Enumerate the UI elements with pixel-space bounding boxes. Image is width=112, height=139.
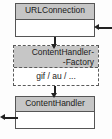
class-compartment-contenthandlerfactory: gif / au / ... xyxy=(14,68,98,85)
arrow-left-icon xyxy=(0,114,5,120)
class-box-urlconnection[interactable]: URLConnection xyxy=(15,3,95,37)
class-box-contenthandlerfactory[interactable]: ContentHandler- -Factory gif / au / ... xyxy=(13,45,99,86)
connector-line xyxy=(54,86,56,94)
connector-line xyxy=(54,37,56,45)
class-name-contenthandlerfactory: ContentHandler- -Factory xyxy=(14,46,98,68)
class-name-line2: -Factory xyxy=(16,57,94,67)
class-compartment-urlconnection xyxy=(16,20,94,35)
class-box-contenthandler[interactable]: ContentHandler xyxy=(15,96,95,129)
connector-line xyxy=(98,27,112,29)
class-name-contenthandler: ContentHandler xyxy=(16,97,94,112)
connector-into-urlconnection xyxy=(94,24,112,34)
class-name-line1: ContentHandler- xyxy=(16,47,94,57)
class-compartment-contenthandler xyxy=(16,112,94,128)
class-name-urlconnection: URLConnection xyxy=(16,4,94,20)
uml-class-diagram: URLConnection ContentHandler- -Factory g… xyxy=(0,0,112,139)
